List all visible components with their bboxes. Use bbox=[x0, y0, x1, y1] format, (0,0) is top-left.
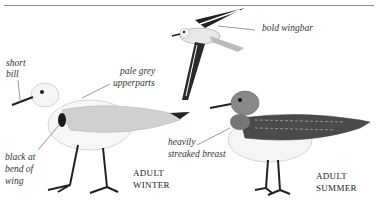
caption-winter-line1: ADULT bbox=[133, 167, 164, 179]
label-bold-wingbar: bold wingbar bbox=[262, 23, 313, 34]
label-pale-grey-line1: pale grey bbox=[120, 66, 155, 77]
label-black-bend-line3: wing bbox=[5, 176, 23, 187]
label-streaked-line2: streaked breast bbox=[168, 149, 226, 160]
caption-summer-line2: SUMMER bbox=[316, 182, 357, 194]
label-short-bill-line2: bill bbox=[6, 69, 19, 80]
label-black-bend-line1: black at bbox=[5, 152, 35, 163]
caption-winter-line2: WINTER bbox=[133, 179, 170, 191]
label-streaked-line1: heavily bbox=[168, 137, 195, 148]
label-short-bill-line1: short bbox=[6, 58, 26, 69]
label-black-bend-line2: bend of bbox=[5, 164, 33, 175]
caption-summer-line1: ADULT bbox=[316, 170, 347, 182]
flying-sanderling bbox=[172, 8, 245, 100]
label-pale-grey-line2: upperparts bbox=[113, 78, 155, 89]
